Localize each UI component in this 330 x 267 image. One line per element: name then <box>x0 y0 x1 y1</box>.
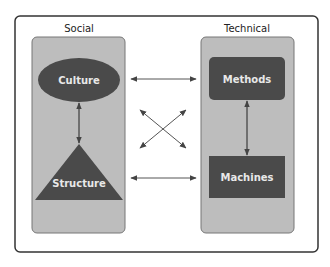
group-label-technical: Technical <box>223 23 270 34</box>
structure-label: Structure <box>52 178 106 189</box>
diagram-canvas: Social Technical Culture Structure Metho… <box>0 0 330 267</box>
culture-label: Culture <box>58 75 100 86</box>
group-label-social: Social <box>64 23 94 34</box>
methods-label: Methods <box>223 74 272 85</box>
machines-label: Machines <box>220 172 273 183</box>
